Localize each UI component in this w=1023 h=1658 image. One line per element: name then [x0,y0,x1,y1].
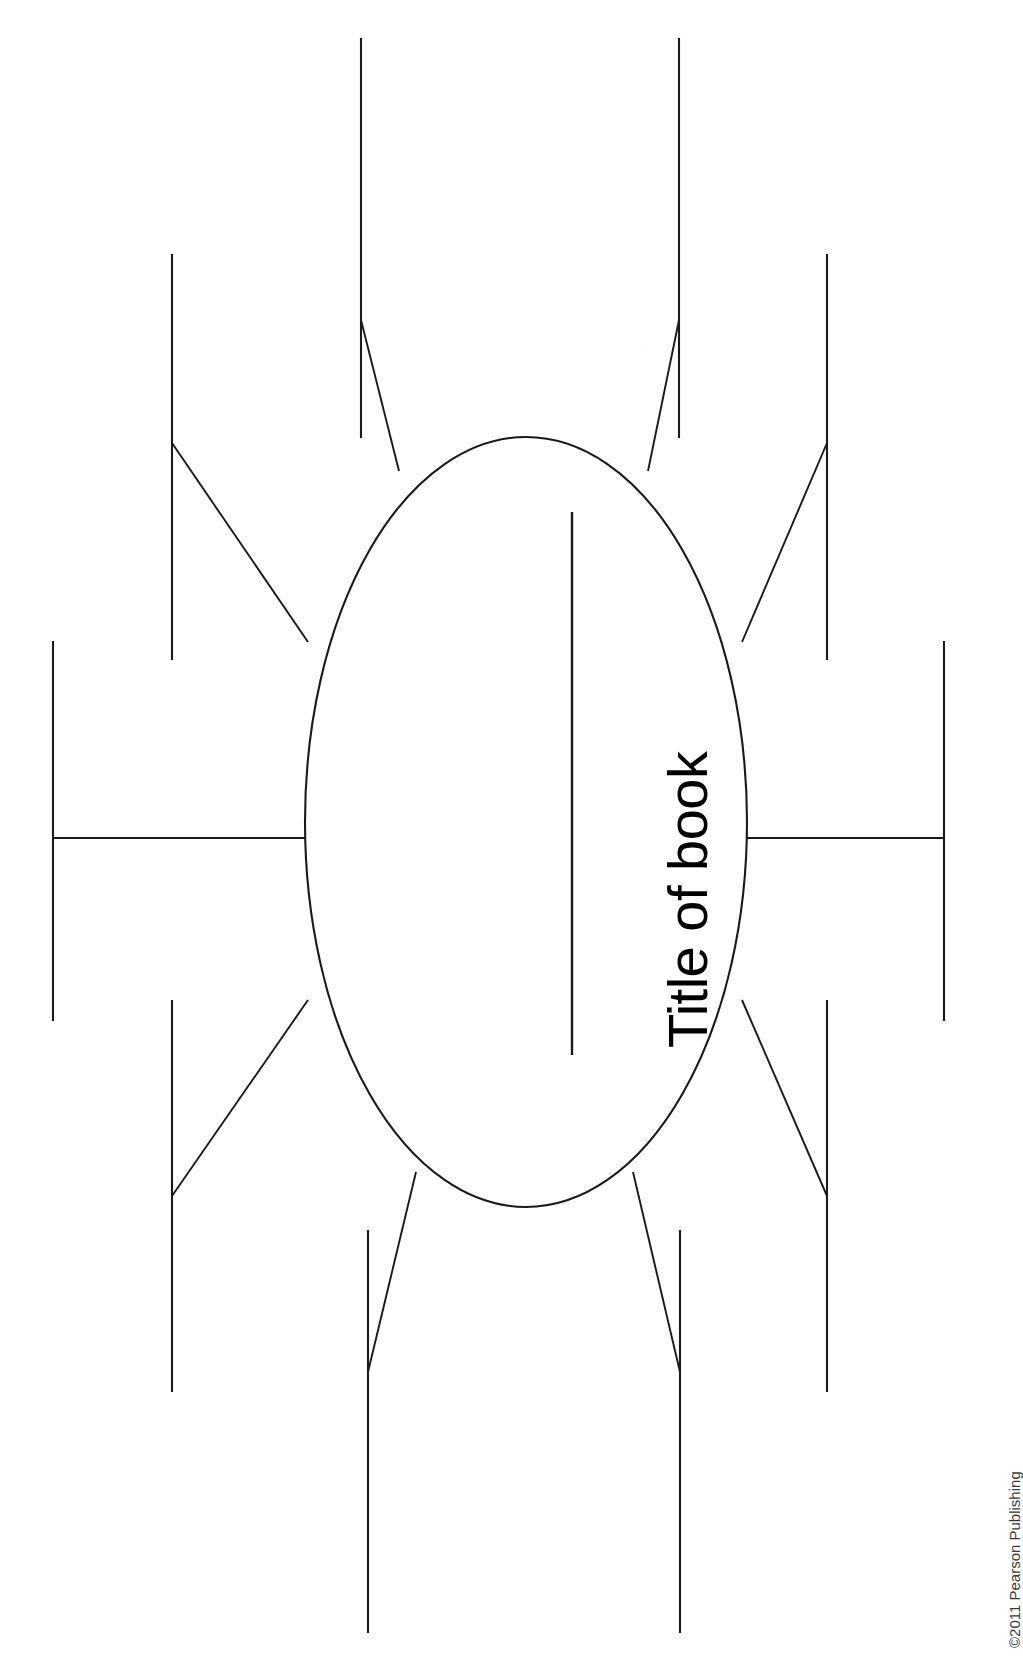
spoke-north-right [648,320,679,471]
spoke-northwest [172,443,308,642]
book-web-diagram [0,0,1023,1658]
spoke-northeast [742,443,827,642]
answer-line-group [53,38,944,1633]
attribution-text: ©2011 Pearson Publishing [1006,1471,1023,1648]
spoke-group [53,320,944,1372]
spoke-southwest [172,1000,308,1196]
worksheet-page: Title of book ©2011 Pearson Publishing [0,0,1023,1658]
spoke-southeast [742,1000,827,1196]
title-of-book-label: Title of book [655,752,720,1048]
spoke-north-left [361,320,399,471]
spoke-south-left [368,1172,416,1372]
spoke-south-right [633,1172,680,1372]
